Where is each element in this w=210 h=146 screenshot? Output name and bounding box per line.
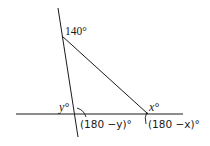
- triangle-angle-diagram: 140° y° (180 −y)° x° (180 −x)°: [0, 0, 210, 146]
- left-exterior-angle-arc: [77, 108, 86, 117]
- diagonal-side-line: [62, 36, 148, 114]
- right-exterior-angle-label: (180 −x)°: [148, 118, 200, 130]
- left-exterior-angle-label: (180 −y)°: [80, 118, 132, 130]
- right-interior-angle-label: x°: [148, 100, 159, 114]
- top-angle-label: 140°: [65, 25, 87, 37]
- left-interior-angle-label: y°: [58, 100, 69, 114]
